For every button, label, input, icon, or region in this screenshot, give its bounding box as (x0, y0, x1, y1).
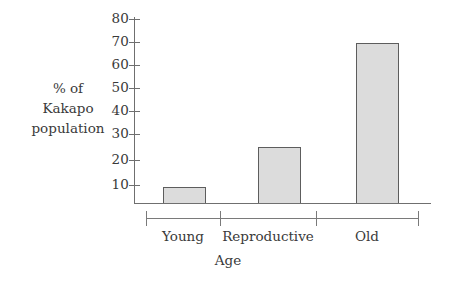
category-axis-tick-1 (220, 211, 221, 226)
y-axis-tick-80 (129, 19, 140, 20)
y-axis-label-30: 30 (95, 127, 129, 141)
y-axis-label-40: 40 (95, 104, 129, 118)
bar-old (356, 43, 399, 204)
y-axis-tick-10 (129, 185, 140, 186)
y-axis-label-50: 50 (95, 81, 129, 95)
y-axis-label-60: 60 (95, 58, 129, 72)
y-axis-tick-60 (129, 65, 140, 66)
category-label-reproductive: Reproductive (220, 228, 316, 244)
category-axis-tick-3 (418, 211, 419, 226)
category-axis-tick-2 (316, 211, 317, 226)
y-axis-label-10: 10 (95, 178, 129, 192)
category-label-young: Young (146, 228, 220, 244)
x-axis-title: Age (188, 252, 268, 268)
y-axis-tick-40 (129, 111, 140, 112)
y-axis-tick-30 (129, 134, 140, 135)
y-axis-tick-70 (129, 42, 140, 43)
category-axis-line (146, 218, 418, 219)
y-axis-label-70: 70 (95, 35, 129, 49)
y-axis-tick-50 (129, 88, 140, 89)
category-axis-tick-0 (146, 211, 147, 226)
bar-young (163, 187, 206, 204)
bar-reproductive (258, 147, 301, 204)
x-axis-line (134, 203, 431, 204)
bar-chart: % of Kakapo population 80 70 60 50 40 30… (0, 0, 468, 286)
y-axis-tick-20 (129, 160, 140, 161)
y-axis-label-20: 20 (95, 153, 129, 167)
y-axis-label-80: 80 (95, 12, 129, 26)
category-label-old: Old (316, 228, 418, 244)
